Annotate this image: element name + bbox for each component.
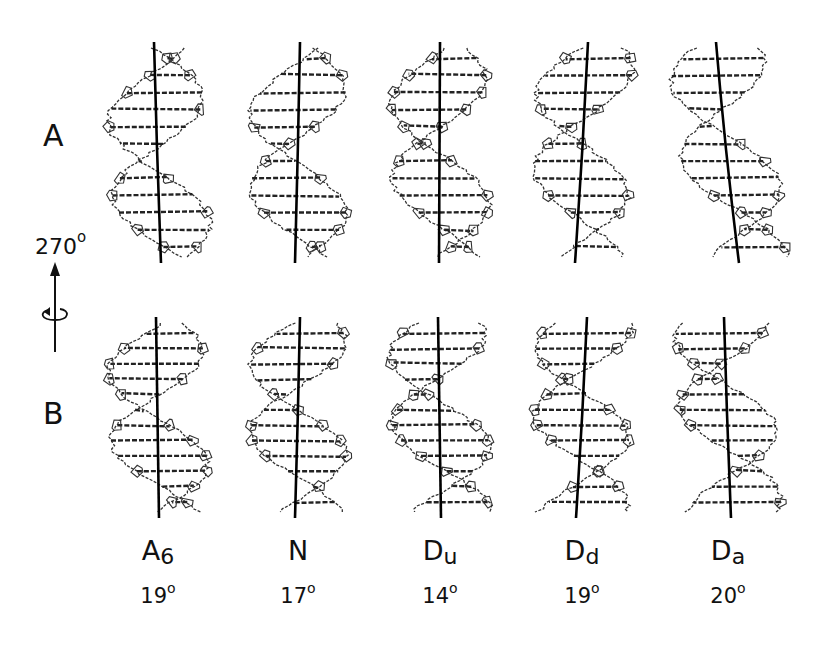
name-sub: 6 bbox=[160, 544, 174, 569]
bend-angle: 17o bbox=[248, 580, 348, 608]
row-label-a: A bbox=[43, 118, 64, 153]
name-sub: a bbox=[732, 544, 745, 569]
dna-helix-structure bbox=[512, 315, 652, 520]
dna-helix-structure bbox=[228, 40, 368, 265]
dna-helix-structure bbox=[658, 315, 798, 520]
name-sub: u bbox=[443, 544, 457, 569]
helix-axis-line bbox=[439, 42, 440, 263]
column-name: A6 bbox=[108, 535, 208, 569]
name-main: A bbox=[142, 535, 160, 566]
rotation-label: 270o bbox=[35, 228, 86, 259]
dna-helix-structure bbox=[370, 315, 510, 520]
bend-angle: 14o bbox=[390, 580, 490, 608]
angle-value: 19 bbox=[140, 584, 167, 608]
degree-symbol: o bbox=[77, 228, 86, 246]
rotation-value: 270 bbox=[35, 234, 77, 259]
degree-symbol: o bbox=[449, 580, 458, 596]
name-main: D bbox=[565, 535, 586, 566]
bend-angle: 20o bbox=[678, 580, 778, 608]
dna-helix-structure bbox=[658, 40, 798, 265]
name-main: D bbox=[423, 535, 444, 566]
name-main: N bbox=[288, 535, 308, 566]
angle-value: 14 bbox=[422, 584, 449, 608]
angle-value: 20 bbox=[710, 584, 737, 608]
column-name: Dd bbox=[532, 535, 632, 569]
column-name: Du bbox=[390, 535, 490, 569]
column-name: N bbox=[248, 535, 348, 569]
dna-helix-structure bbox=[370, 40, 510, 265]
degree-symbol: o bbox=[167, 580, 176, 596]
rotation-axis-arrow-icon bbox=[36, 262, 76, 362]
angle-value: 19 bbox=[564, 584, 591, 608]
angle-value: 17 bbox=[280, 584, 307, 608]
degree-symbol: o bbox=[307, 580, 316, 596]
name-main: D bbox=[711, 535, 732, 566]
dna-helix-structure bbox=[228, 315, 368, 520]
helix-axis-line bbox=[438, 317, 441, 518]
dna-helix-structure bbox=[88, 40, 228, 265]
degree-symbol: o bbox=[737, 580, 746, 596]
row-label-b: B bbox=[43, 396, 64, 431]
bend-angle: 19o bbox=[108, 580, 208, 608]
degree-symbol: o bbox=[591, 580, 600, 596]
name-sub: d bbox=[585, 544, 599, 569]
dna-helix-structure bbox=[512, 40, 652, 265]
column-name: Da bbox=[678, 535, 778, 569]
bend-angle: 19o bbox=[532, 580, 632, 608]
dna-helix-structure bbox=[88, 315, 228, 520]
